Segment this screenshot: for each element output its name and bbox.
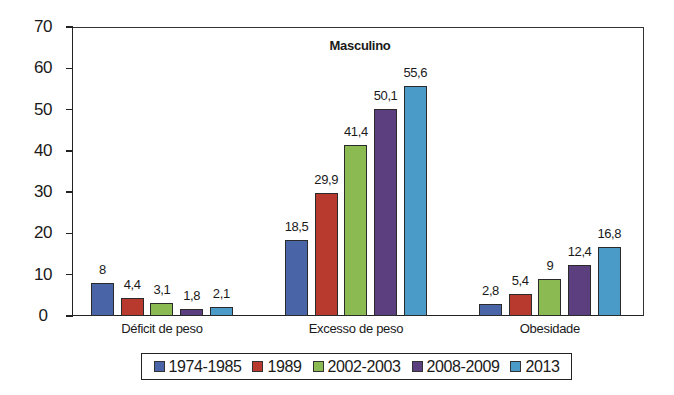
y-tick-label: 0 (28, 306, 58, 326)
legend-swatch-icon (313, 361, 324, 372)
bar-1989 (315, 193, 338, 316)
legend-item: 1974-1985 (154, 358, 242, 376)
y-tick-label: 60 (28, 58, 58, 78)
legend-swatch-icon (154, 361, 165, 372)
bar-chart: Masculino 010203040506070 84,43,11,82,11… (0, 0, 674, 395)
bar-2013 (210, 307, 233, 316)
y-tick (66, 315, 73, 317)
bar-1989 (121, 298, 144, 316)
y-tick-label: 10 (28, 265, 58, 285)
legend-label: 2002-2003 (328, 358, 401, 376)
bar-value-label: 9 (530, 258, 570, 273)
category-label: Excesso de peso (286, 321, 426, 336)
legend-label: 1989 (267, 358, 301, 376)
bar-2008-2009 (568, 265, 591, 316)
legend: 1974-198519892002-20032008-20092013 (141, 353, 572, 380)
legend-swatch-icon (412, 361, 423, 372)
y-tick (66, 26, 73, 28)
legend-swatch-icon (252, 361, 263, 372)
bar-1989 (509, 294, 532, 316)
y-tick-label: 70 (28, 17, 58, 37)
bar-2013 (404, 86, 427, 316)
legend-swatch-icon (510, 361, 521, 372)
bar-value-label: 41,4 (336, 124, 376, 139)
bar-1974-1985 (91, 283, 114, 316)
y-tick (66, 233, 73, 235)
bar-value-label: 2,1 (201, 286, 241, 301)
y-tick (66, 109, 73, 111)
bar-value-label: 5,4 (500, 273, 540, 288)
legend-label: 2008-2009 (427, 358, 500, 376)
bar-value-label: 18,5 (277, 219, 317, 234)
bar-2008-2009 (180, 309, 203, 316)
bar-2002-2003 (344, 145, 367, 316)
bar-2002-2003 (538, 279, 561, 316)
bar-value-label: 50,1 (366, 88, 406, 103)
bar-value-label: 16,8 (589, 226, 629, 241)
bar-2013 (598, 247, 621, 316)
bar-value-label: 8 (83, 262, 123, 277)
legend-label: 2013 (525, 358, 559, 376)
y-tick-label: 40 (28, 141, 58, 161)
legend-item: 2002-2003 (313, 358, 401, 376)
bar-1974-1985 (285, 240, 308, 316)
bar-1974-1985 (479, 304, 502, 316)
category-label: Obesidade (480, 321, 620, 336)
bar-value-label: 29,9 (306, 172, 346, 187)
y-tick-label: 30 (28, 182, 58, 202)
y-tick-label: 50 (28, 100, 58, 120)
category-label: Déficit de peso (92, 321, 232, 336)
legend-item: 2008-2009 (412, 358, 500, 376)
bar-value-label: 12,4 (560, 244, 600, 259)
legend-label: 1974-1985 (169, 358, 242, 376)
y-tick (66, 150, 73, 152)
y-tick (66, 274, 73, 276)
bar-2008-2009 (374, 109, 397, 316)
bar-2002-2003 (150, 303, 173, 316)
chart-title: Masculino (300, 38, 420, 53)
legend-item: 1989 (252, 358, 301, 376)
y-tick (66, 68, 73, 70)
y-tick (66, 191, 73, 193)
legend-item: 2013 (510, 358, 559, 376)
bar-value-label: 55,6 (395, 65, 435, 80)
y-tick-label: 20 (28, 223, 58, 243)
